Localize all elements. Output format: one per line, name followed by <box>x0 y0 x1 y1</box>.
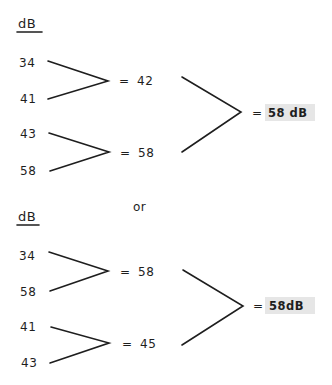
or-separator: or <box>133 200 146 214</box>
equals-sign: = <box>120 265 131 279</box>
pair-bracket <box>49 252 108 291</box>
equals-sign: = <box>120 146 131 160</box>
input-value: 41 <box>20 320 36 334</box>
pair-result: 45 <box>140 337 156 351</box>
input-value: 43 <box>21 356 37 370</box>
input-value: 34 <box>19 56 35 70</box>
pair-bracket <box>49 133 109 171</box>
equals-sign: = <box>119 74 130 88</box>
pair-result: 58 <box>138 146 154 160</box>
final-result: 58 dB <box>268 106 308 120</box>
decibel-addition-diagram: dB 34 41 = 42 43 58 = 58 = 58 dB or dB 3… <box>0 0 332 385</box>
pair-result: 58 <box>138 265 154 279</box>
final-bracket <box>182 270 243 345</box>
input-value: 43 <box>20 127 36 141</box>
input-value: 41 <box>20 92 36 106</box>
equals-sign: = <box>252 106 263 120</box>
equals-sign: = <box>122 337 133 351</box>
final-bracket <box>182 77 241 152</box>
unit-heading: dB <box>18 209 36 224</box>
equals-sign: = <box>253 299 264 313</box>
input-value: 34 <box>19 249 35 263</box>
pair-result: 42 <box>137 74 153 88</box>
arrangement-1: dB 34 41 = 42 43 58 = 58 = 58 dB <box>17 16 315 178</box>
pair-bracket <box>48 61 108 99</box>
pair-bracket <box>50 327 109 363</box>
input-value: 58 <box>20 285 36 299</box>
arrangement-2: dB 34 58 = 58 41 43 = 45 = 58dB <box>17 209 315 370</box>
final-result: 58dB <box>269 299 304 313</box>
input-value: 58 <box>20 164 36 178</box>
unit-heading: dB <box>18 16 36 31</box>
